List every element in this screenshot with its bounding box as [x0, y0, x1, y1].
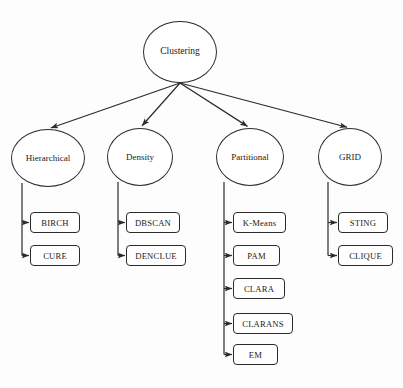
root-to-branch-edges — [51, 83, 347, 128]
branch-node-grid[interactable]: GRID — [318, 128, 382, 186]
leaf-node-hierarchical-0-label: BIRCH — [41, 218, 68, 228]
branch-node-density-label: Density — [126, 153, 154, 162]
root-node-clustering-label: Clustering — [160, 47, 200, 57]
leaf-node-partitional-3-label: CLARANS — [242, 319, 284, 329]
leaf-node-density-1[interactable]: DENCLUE — [126, 245, 186, 266]
leaf-node-grid-1-label: CLIQUE — [349, 251, 382, 261]
leaf-node-density-1-label: DENCLUE — [135, 251, 177, 261]
edge-root-to-partitional — [180, 83, 247, 126]
leaf-node-partitional-4[interactable]: EM — [233, 344, 278, 365]
leaf-node-grid-1[interactable]: CLIQUE — [338, 245, 393, 266]
branch-node-partitional-label: Partitional — [231, 153, 269, 162]
branch-node-hierarchical[interactable]: Hierarchical — [11, 129, 85, 187]
leaf-node-partitional-1-label: PAM — [247, 251, 265, 261]
branch-node-hierarchical-label: Hierarchical — [26, 154, 70, 163]
leaf-node-hierarchical-1-label: CURE — [43, 251, 67, 261]
leaf-node-partitional-0[interactable]: K-Means — [233, 212, 286, 233]
leaf-node-partitional-4-label: EM — [249, 350, 262, 360]
leaf-node-grid-0[interactable]: STING — [338, 212, 388, 233]
leaf-node-partitional-2[interactable]: CLARA — [233, 278, 285, 299]
leaf-node-density-0-label: DBSCAN — [135, 218, 171, 228]
clustering-taxonomy-diagram: ClusteringHierarchicalBIRCHCUREDensityDB… — [0, 0, 403, 388]
leaf-node-hierarchical-0[interactable]: BIRCH — [30, 212, 80, 233]
branch-node-partitional[interactable]: Partitional — [216, 128, 284, 186]
branch-node-density[interactable]: Density — [107, 128, 173, 186]
branch-node-grid-label: GRID — [339, 153, 361, 162]
leaf-node-partitional-1[interactable]: PAM — [233, 245, 280, 266]
leaf-node-partitional-0-label: K-Means — [243, 218, 276, 228]
leaf-node-partitional-2-label: CLARA — [244, 284, 274, 294]
leaf-node-partitional-3[interactable]: CLARANS — [233, 313, 293, 334]
leaf-node-density-0[interactable]: DBSCAN — [126, 212, 180, 233]
edge-root-to-grid — [180, 83, 347, 127]
leaf-node-hierarchical-1[interactable]: CURE — [30, 245, 80, 266]
root-node-clustering[interactable]: Clustering — [143, 21, 217, 83]
leaf-node-grid-0-label: STING — [350, 218, 376, 228]
